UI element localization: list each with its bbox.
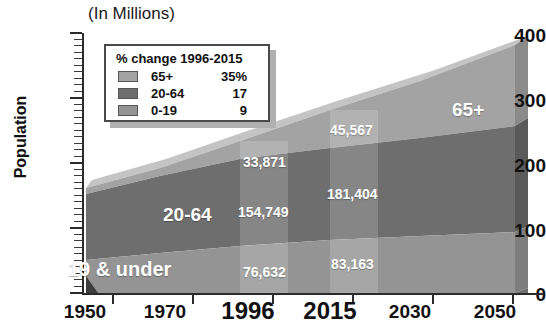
y-tick-370 bbox=[74, 52, 82, 53]
y-tick-400 bbox=[70, 32, 82, 34]
x-tick-label-1950: 1950 bbox=[64, 302, 106, 321]
y-tick-70 bbox=[74, 247, 82, 248]
value-label-1996-youth: 76,632 bbox=[243, 264, 286, 280]
legend-row-youth: 0-19 9 bbox=[118, 102, 262, 119]
y-tick-60 bbox=[74, 253, 82, 254]
y-tick-310 bbox=[74, 91, 82, 92]
y-tick-110 bbox=[74, 221, 82, 222]
y-tick-label-200: 200 bbox=[500, 156, 546, 175]
y-tick-250 bbox=[74, 130, 82, 131]
legend-name-youth: 0-19 bbox=[151, 103, 203, 118]
y-tick-80 bbox=[74, 240, 82, 241]
y-tick-280 bbox=[74, 110, 82, 111]
y-tick-10 bbox=[74, 286, 82, 287]
y-tick-270 bbox=[74, 117, 82, 118]
value-label-1996-adult: 154,749 bbox=[238, 204, 289, 220]
x-tick-label-1996: 1996 bbox=[221, 299, 274, 323]
value-label-2015-adult: 181,404 bbox=[327, 186, 378, 202]
y-tick-180 bbox=[74, 175, 82, 176]
y-tick-230 bbox=[74, 143, 82, 144]
y-tick-360 bbox=[74, 58, 82, 59]
y-axis-line bbox=[82, 33, 84, 294]
value-label-2015-senior: 45,567 bbox=[330, 122, 373, 138]
legend-swatch-adult bbox=[118, 88, 138, 99]
band-label-senior: 65+ bbox=[452, 99, 484, 121]
y-tick-220 bbox=[74, 149, 82, 150]
x-tick-label-2015: 2015 bbox=[303, 299, 356, 323]
legend: % change 1996-2015 65+ 35% 20-64 17 0-19… bbox=[104, 44, 270, 122]
side-face-senior bbox=[515, 36, 528, 126]
y-tick-350 bbox=[74, 65, 82, 66]
band-label-youth: 19 & under bbox=[68, 258, 171, 281]
y-tick-label-400: 400 bbox=[500, 26, 546, 45]
y-tick-330 bbox=[74, 78, 82, 79]
x-tick-2030 bbox=[432, 295, 434, 304]
y-tick-340 bbox=[74, 71, 82, 72]
legend-title: % change 1996-2015 bbox=[116, 51, 262, 66]
chart-title: (In Millions) bbox=[88, 4, 175, 24]
chart-figure: (In Millions) Population 400 300 200 100… bbox=[0, 0, 546, 327]
y-tick-label-300: 300 bbox=[500, 91, 546, 110]
y-tick-210 bbox=[74, 156, 82, 157]
y-tick-160 bbox=[74, 188, 82, 189]
y-tick-200 bbox=[70, 162, 82, 164]
legend-name-adult: 20-64 bbox=[151, 86, 203, 101]
legend-value-senior: 35% bbox=[203, 69, 247, 84]
y-tick-90 bbox=[74, 234, 82, 235]
y-tick-380 bbox=[74, 45, 82, 46]
legend-value-adult: 17 bbox=[203, 86, 247, 101]
x-tick-1970 bbox=[192, 295, 194, 304]
x-tick-label-2050: 2050 bbox=[474, 302, 516, 321]
y-tick-240 bbox=[74, 136, 82, 137]
legend-row-adult: 20-64 17 bbox=[118, 85, 262, 102]
y-tick-140 bbox=[74, 201, 82, 202]
y-tick-260 bbox=[74, 123, 82, 124]
legend-row-senior: 65+ 35% bbox=[118, 68, 262, 85]
x-tick-label-2030: 2030 bbox=[389, 302, 431, 321]
y-tick-150 bbox=[74, 195, 82, 196]
value-label-2015-youth: 83,163 bbox=[331, 256, 374, 272]
y-tick-300 bbox=[70, 97, 82, 99]
legend-value-youth: 9 bbox=[203, 103, 247, 118]
y-tick-100 bbox=[70, 227, 82, 229]
x-tick-label-1970: 1970 bbox=[144, 302, 186, 321]
legend-swatch-senior bbox=[118, 71, 138, 82]
y-tick-190 bbox=[74, 169, 82, 170]
y-axis-label: Population bbox=[12, 72, 30, 202]
x-axis-line bbox=[82, 293, 544, 295]
value-label-1996-senior: 33,871 bbox=[243, 154, 286, 170]
legend-name-senior: 65+ bbox=[151, 69, 203, 84]
y-tick-130 bbox=[74, 208, 82, 209]
y-tick-320 bbox=[74, 84, 82, 85]
y-tick-0 bbox=[70, 292, 82, 294]
y-tick-290 bbox=[74, 104, 82, 105]
y-tick-170 bbox=[74, 182, 82, 183]
y-tick-120 bbox=[74, 214, 82, 215]
band-label-adult: 20-64 bbox=[163, 204, 212, 226]
legend-swatch-youth bbox=[118, 105, 138, 116]
y-tick-390 bbox=[74, 39, 82, 40]
y-tick-label-100: 100 bbox=[500, 221, 546, 240]
x-tick-1950 bbox=[112, 295, 114, 304]
